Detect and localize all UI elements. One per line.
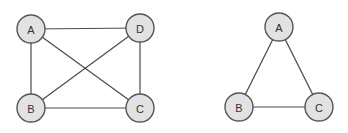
graph-diagram: ADBCABC: [0, 0, 348, 133]
node-c: C: [126, 94, 154, 122]
node-label: A: [275, 22, 283, 34]
node-label: A: [27, 24, 35, 36]
node-label: C: [136, 103, 144, 115]
complete-graph-k4: ADBC: [17, 14, 154, 122]
node-b: B: [17, 94, 45, 122]
diagram-canvas: ADBCABC: [0, 0, 348, 133]
node-b: B: [225, 93, 253, 121]
node-a: A: [265, 13, 293, 41]
node-d: D: [126, 14, 154, 42]
node-label: C: [315, 102, 323, 114]
triangle-graph-k3: ABC: [225, 13, 333, 121]
node-label: D: [136, 23, 144, 35]
edge-a-d: [31, 28, 140, 29]
node-c: C: [305, 93, 333, 121]
node-a: A: [17, 15, 45, 43]
node-label: B: [235, 102, 242, 114]
node-label: B: [27, 103, 34, 115]
